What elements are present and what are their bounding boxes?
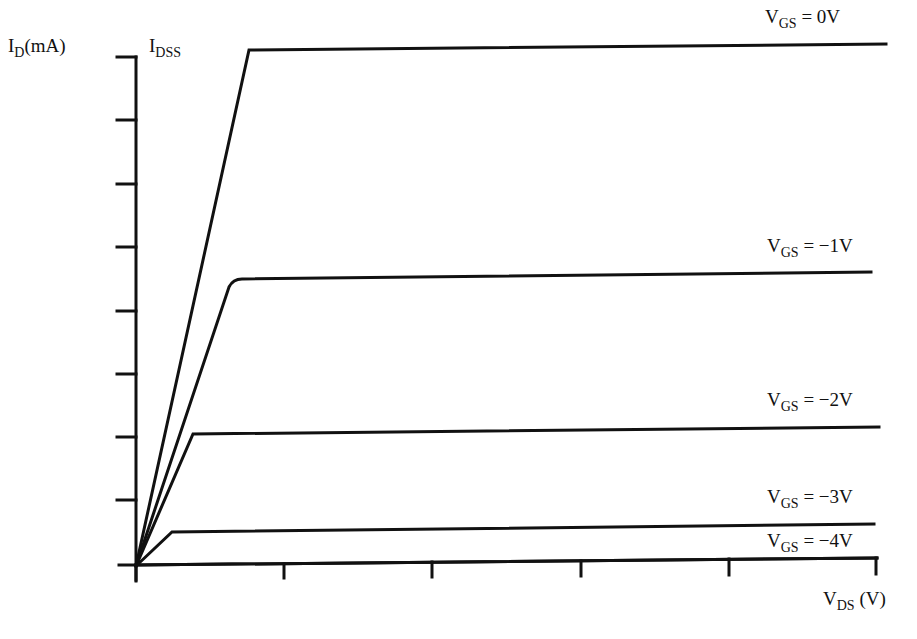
idss-label: IDSS — [149, 36, 181, 55]
curve-label-vgs-minus-2v: VGS = −2V — [767, 390, 853, 409]
curve-label-vgs-minus-1v: VGS = −1V — [767, 236, 853, 255]
curve-vgs-minus-1v — [136, 272, 871, 566]
y-ticks — [117, 57, 136, 565]
curve-label-vgs-minus-3v: VGS = −3V — [767, 487, 853, 506]
curve-vgs-minus-4v — [136, 558, 877, 565]
curve-label-vgs-minus-4v: VGS = −4V — [767, 531, 853, 550]
curve-label-vgs-0v: VGS = 0V — [765, 7, 840, 26]
x-axis-label: VDS (V) — [823, 589, 886, 608]
y-axis-label: ID(mA) — [8, 36, 66, 55]
